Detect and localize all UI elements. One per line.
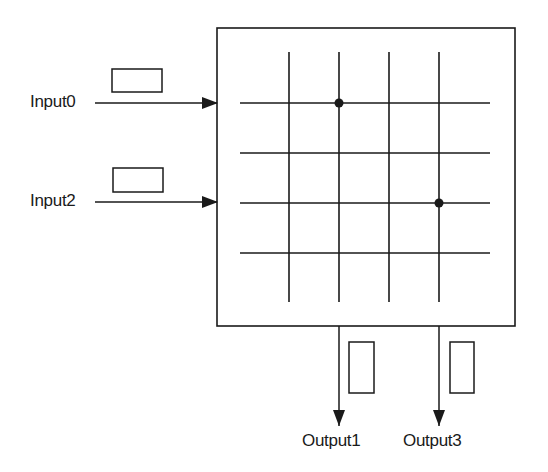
crosspoint-dot — [335, 99, 344, 108]
input-label-0: Input0 — [30, 93, 75, 110]
switch-box-outline — [217, 28, 515, 326]
crosspoint-dot — [435, 199, 444, 208]
input-buffer — [112, 69, 162, 92]
crossbar-grid — [240, 52, 490, 302]
output-label-1: Output1 — [302, 432, 360, 449]
input-buffer — [113, 168, 163, 192]
output-buffer — [349, 342, 374, 393]
output-arrowhead — [433, 410, 445, 426]
output-label-3: Output3 — [403, 432, 461, 449]
input-label-2: Input2 — [30, 192, 75, 209]
output-arrowhead — [333, 410, 345, 426]
crossbar-diagram — [0, 0, 548, 472]
output-buffer — [450, 342, 474, 393]
output-ports — [333, 326, 474, 426]
switch-box — [217, 28, 515, 326]
input-ports — [95, 69, 217, 202]
